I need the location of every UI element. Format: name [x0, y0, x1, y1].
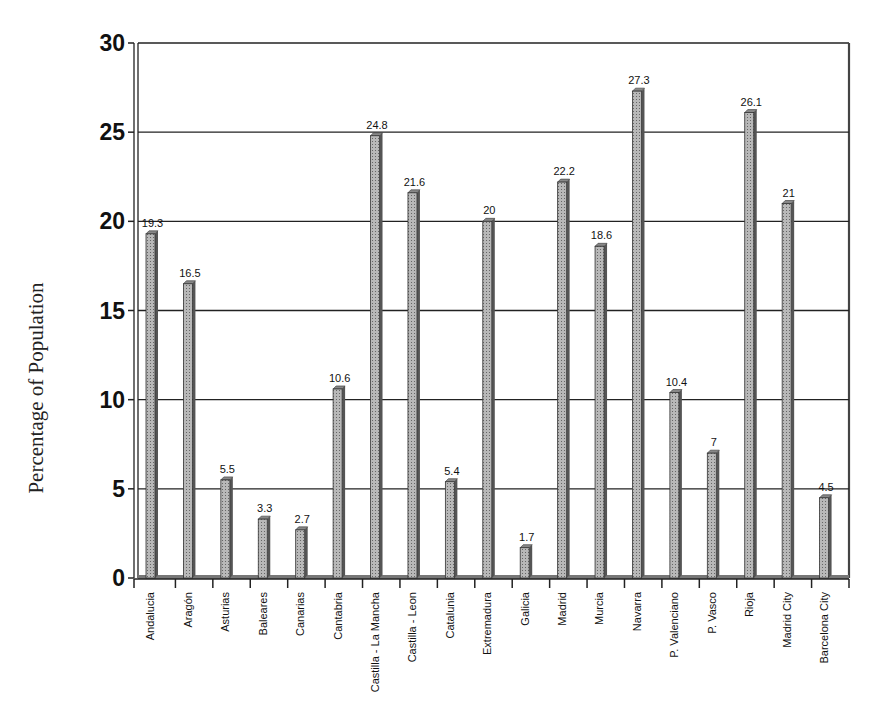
bar [445, 482, 454, 578]
bar [333, 389, 342, 578]
svg-text:Castilla - Leon: Castilla - Leon [406, 592, 418, 662]
bar [745, 113, 754, 578]
svg-text:21.6: 21.6 [404, 176, 425, 188]
bar [183, 284, 192, 578]
bar [820, 498, 829, 578]
bar [221, 480, 230, 578]
svg-text:Extremadura: Extremadura [481, 591, 493, 655]
svg-text:10: 10 [99, 387, 125, 413]
bar [670, 393, 679, 578]
svg-text:20: 20 [99, 208, 125, 234]
bar [146, 234, 155, 578]
svg-text:Madrid: Madrid [556, 592, 568, 626]
svg-text:16.5: 16.5 [179, 267, 200, 279]
svg-text:Catalunia: Catalunia [444, 591, 456, 638]
svg-text:Canarias: Canarias [294, 592, 306, 637]
y-axis: 051015202530 [99, 30, 134, 591]
svg-text:4.5: 4.5 [818, 481, 833, 493]
bar [632, 91, 641, 578]
svg-text:5.5: 5.5 [220, 463, 235, 475]
svg-text:P. Valenciano: P. Valenciano [668, 592, 680, 658]
svg-text:3.3: 3.3 [257, 502, 272, 514]
bar [520, 548, 529, 578]
bar [371, 136, 380, 578]
svg-text:Rioja: Rioja [743, 591, 755, 617]
svg-text:19.3: 19.3 [142, 217, 163, 229]
svg-text:Galicia: Galicia [519, 591, 531, 626]
svg-text:1.7: 1.7 [519, 531, 534, 543]
svg-text:Murcia: Murcia [593, 591, 605, 625]
svg-text:30: 30 [99, 30, 125, 56]
bar [595, 246, 604, 578]
svg-text:26.1: 26.1 [741, 96, 762, 108]
svg-text:20: 20 [483, 204, 495, 216]
bar [408, 193, 417, 578]
bar-chart: 051015202530 19.316.55.53.32.710.624.821… [0, 0, 877, 717]
bar [258, 519, 267, 578]
x-axis: AndaluciaAragónAsturiasBalearesCanariasC… [134, 579, 849, 692]
svg-text:Cantabria: Cantabria [332, 591, 344, 640]
svg-text:Baleares: Baleares [257, 592, 269, 636]
bar [558, 182, 567, 578]
svg-text:P. Vasco: P. Vasco [706, 592, 718, 634]
svg-text:Castilla - La Mancha: Castilla - La Mancha [369, 591, 381, 692]
bar [707, 453, 716, 578]
svg-text:Andalucia: Andalucia [144, 591, 156, 640]
svg-text:10.4: 10.4 [666, 376, 687, 388]
svg-text:22.2: 22.2 [553, 165, 574, 177]
svg-text:5.4: 5.4 [444, 465, 459, 477]
svg-text:10.6: 10.6 [329, 372, 350, 384]
svg-text:0: 0 [112, 565, 125, 591]
bars: 19.316.55.53.32.710.624.821.65.4201.722.… [138, 74, 849, 579]
svg-text:Madrid City: Madrid City [781, 592, 793, 648]
svg-text:7: 7 [711, 436, 717, 448]
svg-text:Asturias: Asturias [219, 592, 231, 632]
svg-text:21: 21 [783, 187, 795, 199]
svg-text:Aragón: Aragón [182, 592, 194, 627]
svg-text:5: 5 [112, 476, 125, 502]
svg-text:25: 25 [99, 119, 125, 145]
bar [782, 204, 791, 579]
svg-text:2.7: 2.7 [295, 513, 310, 525]
svg-text:27.3: 27.3 [628, 74, 649, 86]
bar [483, 221, 492, 578]
svg-text:24.8: 24.8 [366, 119, 387, 131]
bar [296, 530, 305, 578]
svg-text:Navarra: Navarra [631, 591, 643, 631]
svg-text:15: 15 [99, 298, 125, 324]
svg-text:Barcelona City: Barcelona City [818, 592, 830, 664]
svg-text:18.6: 18.6 [591, 229, 612, 241]
